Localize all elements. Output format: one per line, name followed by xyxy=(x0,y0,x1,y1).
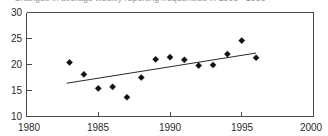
trend-line xyxy=(67,53,256,83)
chart-figure: Changes in average weekly reporting freq… xyxy=(0,0,328,136)
data-point xyxy=(224,51,230,57)
data-point xyxy=(66,59,72,65)
x-tick-label-1990: 1990 xyxy=(159,122,182,133)
x-tick-label-2000: 2000 xyxy=(300,122,323,133)
data-point xyxy=(110,84,116,90)
y-tick-label-20: 20 xyxy=(11,59,23,70)
y-axis-tick-labels: 30 25 20 15 10 xyxy=(11,7,23,122)
y-tick-label-25: 25 xyxy=(11,33,23,44)
data-point xyxy=(196,62,202,68)
data-point xyxy=(253,55,259,61)
x-tick-label-1980: 1980 xyxy=(18,122,41,133)
y-tick-label-30: 30 xyxy=(11,7,23,18)
x-tick-label-1995: 1995 xyxy=(231,122,254,133)
data-point xyxy=(138,74,144,80)
data-point xyxy=(167,54,173,60)
x-axis-tick-labels: 1980 1985 1990 1995 2000 xyxy=(18,122,323,133)
data-point xyxy=(239,37,245,43)
data-point xyxy=(181,57,187,63)
x-axis-ticks xyxy=(27,112,314,117)
data-point-group xyxy=(66,37,259,100)
data-point xyxy=(81,71,87,77)
data-point xyxy=(124,94,130,100)
scatter-plot: 30 25 20 15 10 1980 1985 1990 1995 2000 xyxy=(0,0,328,136)
y-axis-ticks xyxy=(27,13,32,117)
x-tick-label-1985: 1985 xyxy=(87,122,110,133)
data-point xyxy=(210,62,216,68)
data-point xyxy=(95,85,101,91)
data-point xyxy=(153,56,159,62)
y-tick-label-15: 15 xyxy=(11,85,23,96)
y-tick-label-10: 10 xyxy=(11,111,23,122)
